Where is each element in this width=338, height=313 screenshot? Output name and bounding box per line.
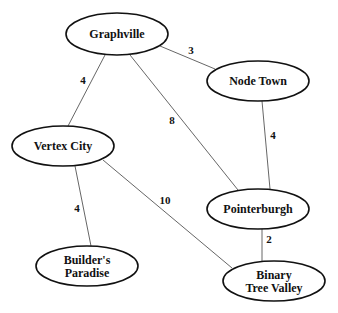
edge-weight-label: 10 [160,194,172,206]
edge-weight-label: 8 [169,114,175,126]
node-pointerburgh: Pointerburgh [207,189,309,229]
edge-line [68,55,105,126]
node-builders_paradise: Builder'sParadise [36,246,138,286]
nodes-layer: GraphvilleNode TownVertex CityPointerbur… [12,13,325,301]
edge-weight-label: 4 [80,74,86,86]
edge-weight-label: 4 [270,129,276,141]
node-node_town: Node Town [207,61,309,101]
node-binary_tree_valley: BinaryTree Valley [223,261,325,301]
edge-graphville-vertex_city: 4 [68,55,105,126]
node-vertex_city: Vertex City [12,126,114,166]
edge-weight-label: 4 [74,202,80,214]
node-graphville: Graphville [66,13,168,55]
edge-node_town-pointerburgh: 4 [262,101,276,189]
edge-vertex_city-builders_paradise: 4 [74,166,91,246]
node-label: Tree Valley [245,281,302,295]
edge-line [262,101,270,189]
node-label: Builder's [64,253,111,267]
node-label: Binary [256,268,291,282]
node-label: Graphville [89,27,145,41]
node-label: Pointerburgh [223,202,293,216]
edge-pointerburgh-binary_tree_valley: 2 [262,229,272,261]
edge-weight-label: 3 [188,44,194,56]
edge-weight-label: 2 [266,233,272,245]
node-label: Paradise [65,266,110,280]
graph-diagram: 34844102 GraphvilleNode TownVertex CityP… [0,0,338,313]
edge-graphville-node_town: 3 [160,44,215,69]
node-label: Vertex City [34,139,93,153]
node-label: Node Town [229,74,287,88]
